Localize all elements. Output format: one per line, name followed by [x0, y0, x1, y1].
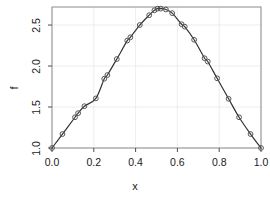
data-markers — [50, 6, 264, 150]
plot-frame — [52, 7, 261, 148]
data-line — [52, 8, 261, 148]
chart-container: f x 1.01.52.02.5 0.00.20.40.60.81.0 — [0, 0, 270, 200]
plot-svg — [0, 0, 270, 200]
axis-ticks — [48, 25, 261, 152]
gridlines — [52, 7, 261, 148]
